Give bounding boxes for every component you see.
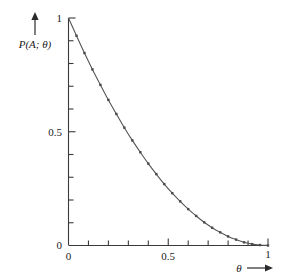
data-point-marker (227, 235, 229, 237)
data-point-marker (107, 99, 109, 101)
data-point-marker (99, 84, 101, 86)
data-point-marker (195, 215, 197, 217)
data-point-marker (139, 151, 141, 153)
y-axis-label: P(A; θ) (18, 38, 52, 51)
data-point-marker (211, 227, 213, 229)
data-point-marker (163, 183, 165, 185)
data-point-marker (123, 126, 125, 128)
data-point-marker (203, 221, 205, 223)
data-point-marker (147, 162, 149, 164)
data-point-marker (235, 238, 237, 240)
x-tick-label-0point5: 0.5 (161, 250, 175, 262)
y-tick-label-0: 0 (57, 239, 63, 251)
data-point-marker (187, 208, 189, 210)
data-point-marker (91, 68, 93, 70)
data-point-marker (115, 113, 117, 115)
x-tick-label-0: 0 (66, 250, 72, 262)
data-point-marker (83, 52, 85, 54)
x-axis-label: θ (236, 262, 242, 274)
y-tick-label-0point5: 0.5 (48, 126, 62, 138)
data-point-marker (243, 241, 245, 243)
x-tick-label-1: 1 (265, 248, 271, 260)
data-point-marker (171, 192, 173, 194)
y-tick-label-1: 1 (57, 12, 63, 24)
data-point-marker (179, 200, 181, 202)
data-point-marker (155, 173, 157, 175)
data-point-marker (251, 243, 253, 245)
data-point-marker (219, 231, 221, 233)
data-point-marker (267, 244, 269, 246)
plot-figure: 1 0.5 0 0 0.5 1 P(A; θ) θ (0, 0, 303, 276)
data-point-marker (75, 35, 77, 37)
data-point-marker (131, 139, 133, 141)
data-point-marker (259, 244, 261, 246)
